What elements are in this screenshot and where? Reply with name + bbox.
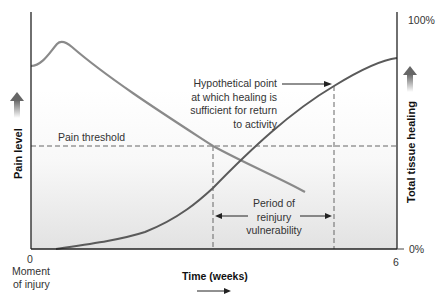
period-line-3: vulnerability: [242, 224, 306, 238]
hypothetical-point-annotation: Hypothetical point at which healing is s…: [182, 77, 277, 131]
chart-canvas: [0, 0, 446, 302]
moment-of-injury-label-line1: Moment: [12, 265, 50, 278]
hyp-line-1: Hypothetical point: [182, 77, 277, 91]
moment-of-injury-label-line2: of injury: [13, 278, 50, 291]
total-tissue-healing-axis-label: Total tissue healing: [405, 101, 417, 203]
pain-level-up-arrow-icon: [10, 92, 24, 118]
y-right-tick-100: 100%: [408, 14, 435, 27]
period-line-1: Period of: [242, 197, 306, 211]
hypothetical-point-arrow-icon: [282, 81, 332, 87]
reinjury-period-annotation: Period of reinjury vulnerability: [242, 197, 306, 238]
x-axis-label: Time (weeks): [182, 270, 248, 283]
hyp-line-4: to activity: [182, 118, 277, 132]
hyp-line-3: sufficient for return: [182, 104, 277, 118]
period-line-2: reinjury: [242, 211, 306, 225]
hyp-line-2: at which healing is: [182, 91, 277, 105]
healing-up-arrow-icon: [403, 66, 417, 92]
x-tick-6: 6: [393, 256, 399, 269]
pain-level-axis-label: Pain level: [12, 128, 24, 179]
pain-threshold-label: Pain threshold: [58, 131, 125, 144]
y-right-tick-0: 0%: [409, 243, 424, 256]
time-direction-arrow-icon: [197, 288, 231, 294]
